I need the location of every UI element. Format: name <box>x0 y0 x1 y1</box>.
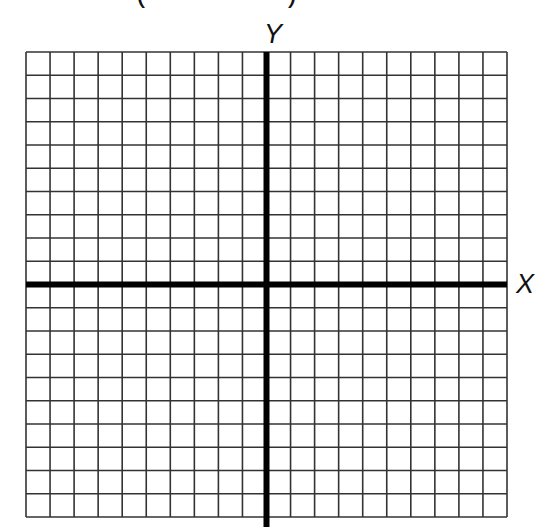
x-axis-label: X <box>516 271 534 298</box>
y-axis-label: Y <box>264 21 282 48</box>
coordinate-grid <box>0 0 557 532</box>
